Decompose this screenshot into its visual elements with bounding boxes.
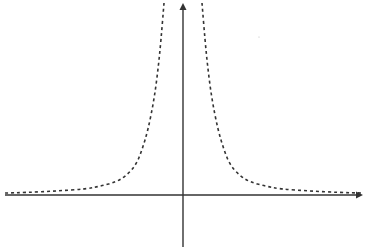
speck <box>258 36 259 37</box>
function-graph <box>0 0 366 247</box>
